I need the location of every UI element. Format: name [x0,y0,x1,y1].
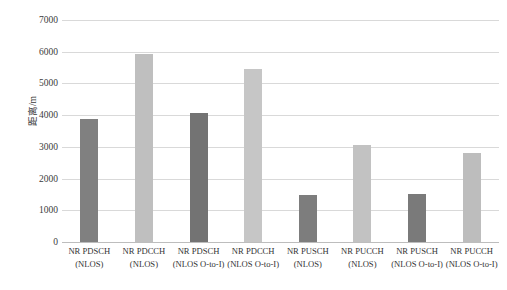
plot-area [62,20,499,242]
bar-chart: 距离/m 70006000500040003000200010000 NR PD… [0,0,507,290]
bar-slot [171,20,226,242]
x-tick-label-line2: (NLOS) [281,258,336,271]
bar[interactable] [244,69,262,242]
y-tick-label: 2000 [18,174,58,184]
bar-slot [117,20,172,242]
y-tick-label: 5000 [18,78,58,88]
bar[interactable] [408,194,426,242]
x-axis-tick-labels: NR PDSCH(NLOS)NR PDCCH(NLOS)NR PDSCH(NLO… [62,245,499,287]
x-tick-label: NR PUSCH(NLOS) [281,245,336,270]
x-tick-label-line2: (NLOS O-to-I) [390,258,445,271]
bar-slot [444,20,499,242]
y-tick-label: 6000 [18,47,58,57]
y-tick-label: 1000 [18,205,58,215]
bar[interactable] [463,153,481,242]
y-tick-label: 0 [18,237,58,247]
bar[interactable] [80,119,98,242]
x-tick-label-line2: (NLOS) [335,258,390,271]
gridline-0 [62,242,499,243]
x-tick-label-line1: NR PDCCH [226,245,281,258]
x-tick-label-line1: NR PUCCH [444,245,499,258]
x-tick-label: NR PDCCH(NLOS) [117,245,172,270]
bar-slot [62,20,117,242]
x-tick-label-line2: (NLOS O-to-I) [171,258,226,271]
bar[interactable] [135,54,153,242]
bar-slot [281,20,336,242]
y-tick-label: 3000 [18,142,58,152]
bar[interactable] [299,195,317,242]
x-tick-label: NR PUCCH(NLOS O-to-I) [444,245,499,270]
bar[interactable] [353,145,371,242]
bar[interactable] [190,113,208,242]
x-tick-label-line1: NR PUSCH [390,245,445,258]
bar-slot [335,20,390,242]
bars-layer [62,20,499,242]
y-tick-label: 4000 [18,110,58,120]
bar-slot [390,20,445,242]
x-tick-label: NR PUSCH(NLOS O-to-I) [390,245,445,270]
x-tick-label-line1: NR PUSCH [281,245,336,258]
x-tick-label-line1: NR PDCCH [117,245,172,258]
y-tick-label: 7000 [18,15,58,25]
x-tick-label: NR PUCCH(NLOS) [335,245,390,270]
x-tick-label-line2: (NLOS) [117,258,172,271]
x-tick-label: NR PDSCH(NLOS O-to-I) [171,245,226,270]
x-tick-label-line2: (NLOS O-to-I) [444,258,499,271]
bar-slot [226,20,281,242]
x-tick-label-line1: NR PUCCH [335,245,390,258]
x-tick-label-line2: (NLOS O-to-I) [226,258,281,271]
y-axis-tick-labels: 70006000500040003000200010000 [18,0,58,290]
x-tick-label: NR PDCCH(NLOS O-to-I) [226,245,281,270]
x-tick-label-line1: NR PDSCH [171,245,226,258]
x-tick-label-line2: (NLOS) [62,258,117,271]
x-tick-label-line1: NR PDSCH [62,245,117,258]
x-tick-label: NR PDSCH(NLOS) [62,245,117,270]
